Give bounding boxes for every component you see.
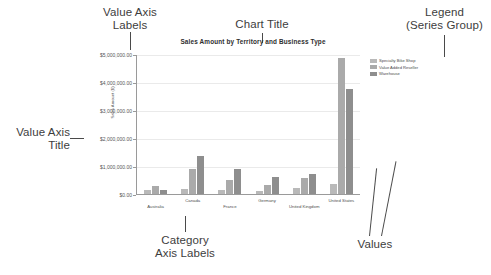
- value-axis-tick-mark: [133, 195, 136, 196]
- bar[interactable]: [160, 190, 167, 194]
- annotation-value-axis-title: Value Axis Title: [2, 126, 70, 152]
- bar[interactable]: [181, 189, 188, 194]
- value-axis-labels: $5,000,000.00$4,000,000.00$3,000,000.00$…: [88, 55, 136, 195]
- bar[interactable]: [152, 186, 159, 194]
- bar[interactable]: [234, 169, 241, 194]
- legend-item[interactable]: Value Added Reseller: [370, 65, 420, 70]
- bar[interactable]: [264, 185, 271, 194]
- bar-groups: [137, 55, 360, 194]
- annotation-chart-title: Chart Title: [207, 18, 317, 31]
- legend-swatch: [370, 65, 377, 69]
- legend-item[interactable]: Specialty Bike Shop: [370, 58, 420, 63]
- bar-group: [218, 55, 241, 194]
- bar[interactable]: [256, 191, 263, 194]
- annotation-value-axis-labels: Value Axis Labels: [75, 6, 185, 32]
- chart-figure: Sales Amount by Territory and Business T…: [88, 38, 418, 218]
- category-axis-tick-label: Canada: [174, 196, 211, 218]
- chart-legend: Specialty Bike ShopValue Added ResellerW…: [370, 58, 420, 78]
- annotation-legend: Legend (Series Group): [398, 6, 491, 32]
- bar[interactable]: [301, 178, 308, 194]
- bar-group: [293, 55, 316, 194]
- legend-label: Value Added Reseller: [379, 65, 418, 70]
- leader-value-axis-title: [70, 138, 84, 139]
- legend-swatch: [370, 59, 377, 63]
- bar-group: [144, 55, 167, 194]
- legend-item[interactable]: Warehouse: [370, 71, 420, 76]
- bar[interactable]: [272, 177, 279, 194]
- bar[interactable]: [309, 174, 316, 194]
- leader-legend: [444, 35, 445, 57]
- value-axis-tick-label: $0.00: [119, 192, 132, 198]
- category-axis-labels: AustraliaCanadaFranceGermanyUnited Kingd…: [137, 196, 360, 218]
- category-axis-tick-label: United Kingdom: [286, 196, 323, 218]
- bar[interactable]: [293, 188, 300, 194]
- bar-group: [330, 55, 353, 194]
- bar-group: [181, 55, 204, 194]
- bar[interactable]: [189, 169, 196, 194]
- value-axis-tick-label: $5,000,000.00: [100, 52, 132, 58]
- annotation-category-axis-labels: Category Axis Labels: [130, 234, 240, 260]
- legend-label: Warehouse: [379, 71, 400, 76]
- bar[interactable]: [218, 190, 225, 194]
- category-axis-tick-label: United States: [323, 196, 360, 218]
- category-axis-tick-label: Germany: [249, 196, 286, 218]
- value-axis-tick-label: $3,000,000.00: [100, 108, 132, 114]
- value-axis-tick-label: $4,000,000.00: [100, 80, 132, 86]
- bar[interactable]: [330, 184, 337, 194]
- legend-swatch: [370, 72, 377, 76]
- bar[interactable]: [226, 180, 233, 194]
- leader-category-axis-labels: [185, 216, 186, 232]
- legend-label: Specialty Bike Shop: [379, 58, 415, 63]
- value-axis-tick-label: $1,000,000.00: [100, 164, 132, 170]
- bar[interactable]: [346, 89, 353, 194]
- bar[interactable]: [197, 156, 204, 194]
- category-axis-tick-label: France: [211, 196, 248, 218]
- value-axis-tick-label: $2,000,000.00: [100, 136, 132, 142]
- bar[interactable]: [144, 190, 151, 194]
- chart-title: Sales Amount by Territory and Business T…: [88, 38, 418, 45]
- bar-group: [256, 55, 279, 194]
- annotation-values: Values: [320, 238, 430, 251]
- category-axis-tick-label: Australia: [137, 196, 174, 218]
- bar[interactable]: [338, 58, 345, 194]
